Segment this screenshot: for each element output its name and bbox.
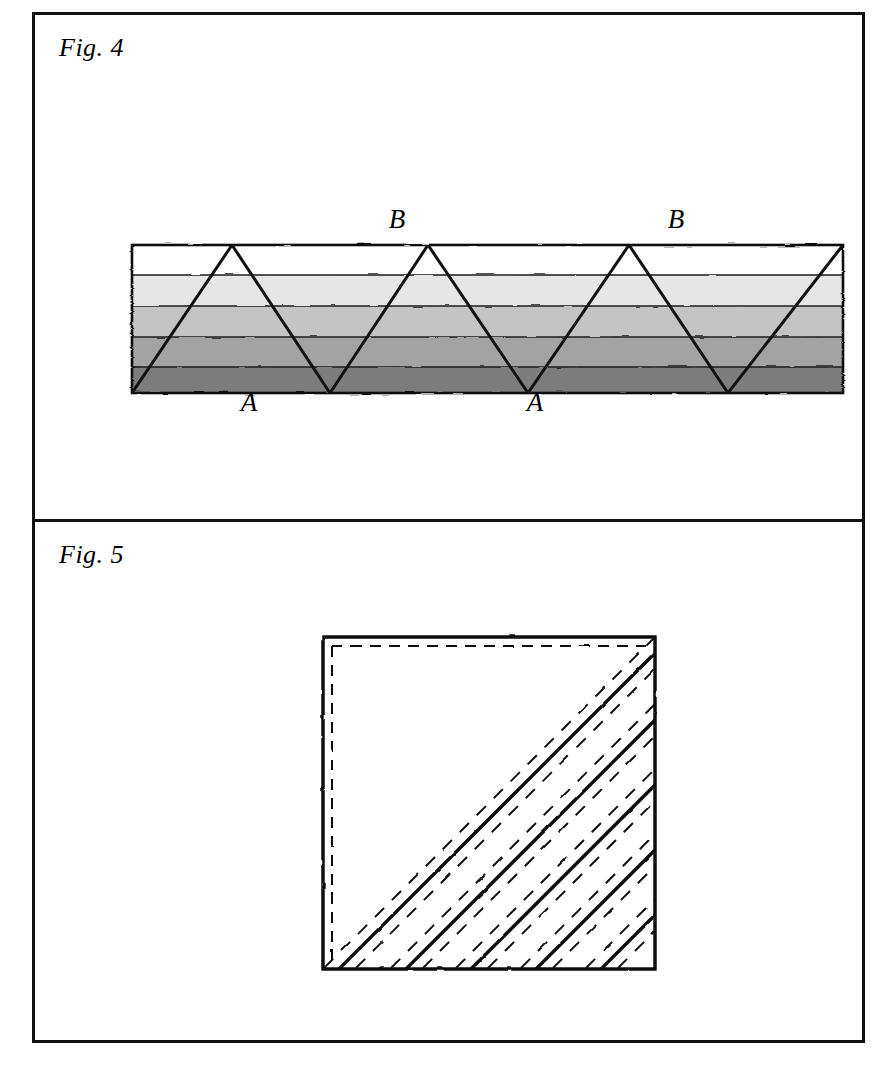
- fig5-figure-group: [307, 621, 862, 985]
- fig4-stratum-4: [132, 337, 843, 367]
- figure-panel-fig4: Fig. 4: [35, 15, 862, 519]
- fig4-strata-group: [132, 245, 843, 393]
- fig4-stratum-1: [132, 245, 843, 275]
- figure-plate: Fig. 4: [32, 12, 865, 1043]
- figure-panel-fig5: Fig. 5: [35, 522, 862, 1043]
- fig4-label-b-1: B: [389, 204, 406, 234]
- fig4-label-a-1: A: [239, 387, 258, 417]
- fig4-label-b-2: B: [668, 204, 685, 234]
- fig4-label-a-2: A: [525, 387, 544, 417]
- figure-page: Fig. 4: [0, 0, 895, 1073]
- fig4-stratum-2: [132, 275, 843, 306]
- fig5-drawing: [35, 522, 862, 1043]
- fig5-square-outline: [323, 637, 655, 969]
- fig4-drawing: B B A A: [35, 15, 862, 519]
